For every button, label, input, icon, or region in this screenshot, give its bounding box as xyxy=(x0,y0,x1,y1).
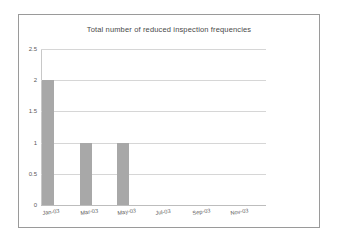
bar[interactable] xyxy=(42,80,54,205)
y-axis-tick-label: 1.5 xyxy=(29,108,37,114)
bar-slot[interactable] xyxy=(230,49,242,205)
y-axis-tick-label: 2 xyxy=(34,77,37,83)
x-axis-tick-label: Sep-03 xyxy=(192,207,211,215)
bar-slot[interactable] xyxy=(42,49,54,205)
bar-slot[interactable] xyxy=(192,49,204,205)
bar-slot[interactable] xyxy=(117,49,129,205)
chart-title: Total number of reduced inspection frequ… xyxy=(19,25,319,34)
bar[interactable] xyxy=(117,143,129,205)
y-axis-tick-label: 2.5 xyxy=(29,46,37,52)
chart-frame: Total number of reduced inspection frequ… xyxy=(18,14,320,228)
y-axis-tick-label: 0 xyxy=(34,202,37,208)
bar-slot[interactable] xyxy=(80,49,92,205)
x-axis-tick-label: Jan-03 xyxy=(42,208,60,216)
x-axis-tick-label: Mar-03 xyxy=(80,208,98,216)
gridline xyxy=(41,205,266,206)
x-axis-tick-label: Nov-03 xyxy=(230,207,249,215)
x-axis-tick-label: May-03 xyxy=(117,207,136,216)
bar[interactable] xyxy=(80,143,92,205)
chart-page: Total number of reduced inspection frequ… xyxy=(0,0,340,240)
plot-area: 00.511.522.5 Jan-03Mar-03May-03Jul-03Sep… xyxy=(41,49,266,205)
x-axis-tick-label: Jul-03 xyxy=(155,208,171,216)
y-axis-tick-label: 0.5 xyxy=(29,171,37,177)
y-axis-tick-label: 1 xyxy=(34,140,37,146)
bar-slot[interactable] xyxy=(155,49,167,205)
